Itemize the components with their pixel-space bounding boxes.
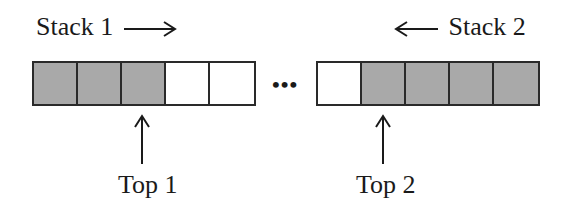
array-cell-filled	[494, 63, 538, 104]
arrow-up-icon	[134, 114, 150, 164]
top-1-label: Top 1	[118, 172, 178, 198]
array-cell-filled	[450, 63, 494, 104]
array-cell-empty	[210, 63, 254, 104]
array-cell-empty	[166, 63, 210, 104]
stack-1-array	[32, 61, 256, 106]
ellipsis: •••	[272, 72, 298, 98]
stack-2-label: Stack 2	[449, 12, 526, 41]
arrow-right-icon	[120, 19, 180, 39]
arrow-up-icon	[375, 114, 391, 164]
array-cell-filled	[362, 63, 406, 104]
stack-2-heading: Stack 2	[392, 14, 526, 40]
array-cell-filled	[122, 63, 166, 104]
stack-2-array	[316, 61, 540, 106]
array-cell-empty	[318, 63, 362, 104]
array-cell-filled	[406, 63, 450, 104]
stack-1-heading: Stack 1	[36, 14, 180, 40]
arrow-left-icon	[392, 19, 442, 39]
array-cell-filled	[78, 63, 122, 104]
top-2-label: Top 2	[356, 172, 416, 198]
array-cell-filled	[34, 63, 78, 104]
stack-1-label: Stack 1	[36, 12, 113, 41]
